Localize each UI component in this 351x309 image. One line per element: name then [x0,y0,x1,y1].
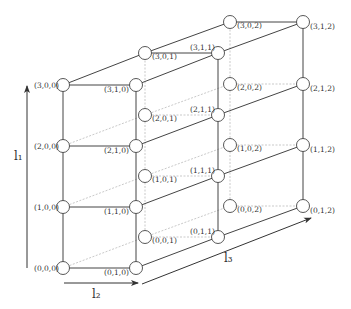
node-label: (1,1,1) [190,166,215,175]
node-label: (2,0,1) [152,114,177,123]
lattice-svg: l₁l₂l₃ (0,0,0)(1,0,0)(2,0,0)(3,0,0)(0,1,… [0,0,351,309]
node-label: (1,0,2) [237,144,262,153]
node-label: (1,1,0) [104,207,129,216]
lattice-node [130,201,143,214]
lattice-node [139,109,152,122]
node-label: (2,1,2) [310,84,335,93]
node-label: (0,1,2) [310,206,335,215]
node-label: (3,1,1) [190,43,215,52]
lattice-node [224,78,237,91]
axis-label-l2: l₂ [92,287,101,301]
nodes [57,16,310,275]
lattice-node [224,16,237,29]
node-label: (2,0,2) [237,83,262,92]
node-label: (0,0,1) [152,236,177,245]
node-label: (2,0,0) [34,142,59,151]
axis-label-l3: l₃ [224,251,233,265]
axis-label-l1: l₁ [14,149,23,163]
node-label: (3,0,2) [237,21,262,30]
lattice-diagram: l₁l₂l₃ (0,0,0)(1,0,0)(2,0,0)(3,0,0)(0,1,… [0,0,351,309]
lattice-node [297,78,310,91]
node-label: (1,0,1) [152,175,177,184]
lattice-node [139,170,152,183]
node-label: (2,1,1) [190,105,215,114]
node-label: (0,1,1) [190,227,215,236]
lattice-node [139,231,152,244]
lattice-node [130,262,143,275]
node-label: (0,0,2) [237,205,262,214]
lattice-node [224,200,237,213]
node-label: (1,1,2) [310,145,335,154]
node-label: (1,0,0) [34,203,59,212]
node-label: (2,1,0) [104,146,129,155]
hidden-edges [63,22,303,268]
lattice-node [130,79,143,92]
lattice-node [139,47,152,60]
node-label: (3,1,2) [310,22,335,31]
node-labels: (0,0,0)(1,0,0)(2,0,0)(3,0,0)(0,1,0)(1,1,… [34,21,335,277]
node-label: (3,1,0) [104,85,129,94]
lattice-node [224,139,237,152]
lattice-node [130,140,143,153]
lattice-node [297,16,310,29]
node-label: (0,1,0) [104,268,129,277]
node-label: (0,0,0) [34,264,59,273]
node-label: (3,0,1) [152,52,177,61]
lattice-node [297,139,310,152]
node-label: (3,0,0) [34,81,59,90]
lattice-node [297,200,310,213]
